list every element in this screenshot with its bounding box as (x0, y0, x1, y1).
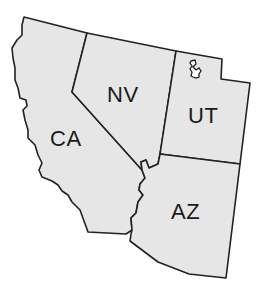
state-map: CA NV UT AZ (0, 0, 260, 288)
label-az: AZ (171, 201, 200, 223)
label-nv: NV (107, 84, 139, 106)
label-ca: CA (50, 128, 82, 150)
map-graphic (0, 0, 260, 288)
label-ut: UT (188, 105, 218, 127)
